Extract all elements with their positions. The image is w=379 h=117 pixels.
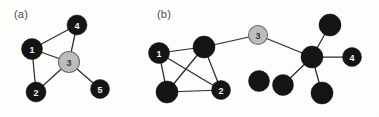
graph-node-1[interactable]: 1	[149, 43, 170, 64]
panel-label-b: (b)	[157, 8, 171, 20]
node-circle[interactable]	[67, 15, 87, 35]
node-circle[interactable]	[193, 36, 215, 58]
graph-node-4[interactable]: 4	[67, 15, 87, 35]
network-graph-canvas: 123451234	[0, 0, 379, 117]
graph-node-unlabeled[interactable]	[273, 75, 294, 96]
node-circle[interactable]	[343, 48, 362, 67]
node-circle[interactable]	[156, 81, 178, 103]
node-circle[interactable]	[212, 81, 231, 100]
graph-node-unlabeled[interactable]	[301, 46, 323, 68]
graph-node-2[interactable]: 2	[26, 82, 46, 102]
node-circle[interactable]	[59, 52, 80, 73]
graph-node-unlabeled[interactable]	[249, 71, 270, 92]
graph-node-3[interactable]: 3	[249, 26, 268, 45]
graph-node-unlabeled[interactable]	[193, 36, 215, 58]
node-circle[interactable]	[319, 14, 341, 36]
graph-node-5[interactable]: 5	[91, 80, 110, 99]
graph-node-unlabeled[interactable]	[311, 82, 333, 104]
graph-node-3[interactable]: 3	[59, 52, 80, 73]
graph-node-unlabeled[interactable]	[156, 81, 178, 103]
node-circle[interactable]	[26, 82, 46, 102]
figure-root: 123451234 (a) (b)	[0, 0, 379, 117]
node-circle[interactable]	[249, 26, 268, 45]
node-circle[interactable]	[249, 71, 270, 92]
graph-node-2[interactable]: 2	[212, 81, 231, 100]
node-circle[interactable]	[301, 46, 323, 68]
node-circle[interactable]	[149, 43, 170, 64]
node-circle[interactable]	[91, 80, 110, 99]
graph-node-4[interactable]: 4	[343, 48, 362, 67]
node-circle[interactable]	[273, 75, 294, 96]
graph-node-unlabeled[interactable]	[319, 14, 341, 36]
graph-node-1[interactable]: 1	[22, 39, 43, 60]
panel-label-a: (a)	[14, 8, 28, 20]
node-circle[interactable]	[22, 39, 43, 60]
node-circle[interactable]	[311, 82, 333, 104]
